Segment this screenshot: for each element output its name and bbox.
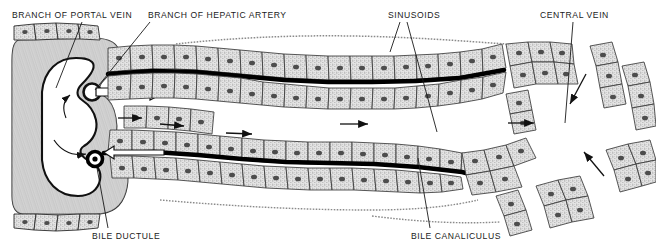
bile-ductule [88,152,103,167]
diagram-canvas [0,0,656,250]
label-central-vein: CENTRAL VEIN [540,11,609,20]
label-branch-of-hepatic-artery: BRANCH OF HEPATIC ARTERY [148,11,287,20]
liver-lobule-diagram: BRANCH OF PORTAL VEIN BRANCH OF HEPATIC … [0,0,656,250]
label-bile-canaliculus: BILE CANALICULUS [411,232,501,241]
sinusoid-upper-boundary [176,36,506,44]
lower-cord-extension [462,138,536,195]
sinusoid-lower-boundary [160,200,478,210]
central-vein-cords [496,42,656,236]
label-branch-of-portal-vein: BRANCH OF PORTAL VEIN [12,11,132,20]
label-sinusoids: SINUSOIDS [388,11,440,20]
blood-flow-arrow-2 [226,133,252,134]
central-vein-arrow-lower [584,152,604,176]
sinusoid-lower-boundary-2 [372,216,500,223]
label-bile-ductule: BILE DUCTULE [92,232,160,241]
